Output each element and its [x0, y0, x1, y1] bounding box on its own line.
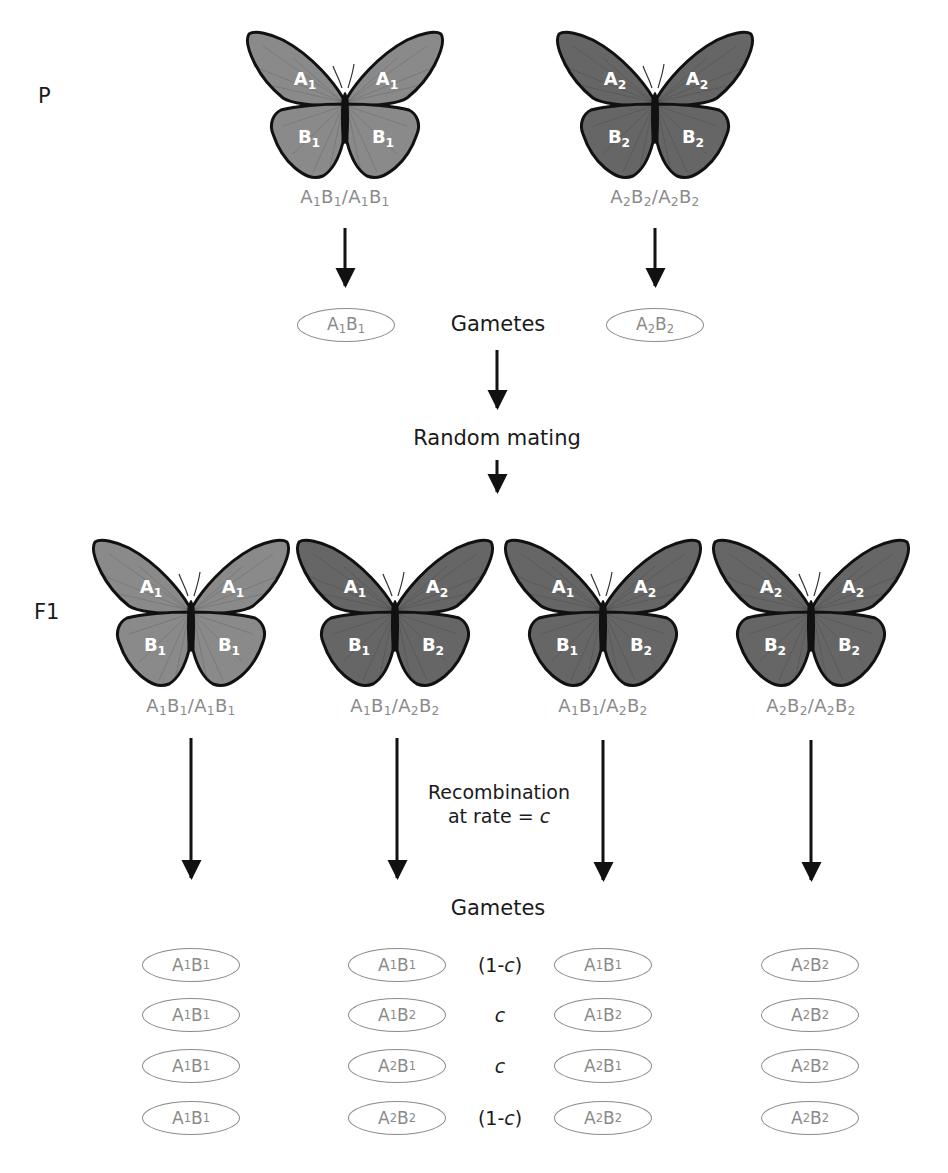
gametes-label-top: Gametes	[451, 312, 546, 336]
wing-label-upper-right: A1	[376, 68, 398, 91]
f1-2-butterfly: A1A2B1B2	[293, 534, 497, 692]
wing-label-upper-right: A2	[426, 576, 448, 599]
f1-1-genotype-label: A1B1/A1B1	[146, 695, 235, 718]
wing-label-lower-left: B1	[556, 634, 578, 657]
arrow-down	[190, 738, 193, 878]
gamete-oval: A2B1	[554, 1049, 652, 1083]
wing-label-upper-right: A2	[686, 68, 708, 91]
recombination-probability: (1-c)	[478, 1107, 522, 1129]
wing-label-lower-left: B2	[764, 634, 786, 657]
gamete-oval: A1B1	[142, 948, 240, 982]
wing-label-lower-right: B2	[630, 634, 652, 657]
parent-1-genotype-label: A1B1/A1B1	[300, 186, 389, 209]
gamete-oval-parent-2: A2B2	[606, 308, 704, 342]
wing-label-lower-right: B2	[838, 634, 860, 657]
recombination-label-line2: at rate = c	[428, 804, 570, 828]
wing-label-lower-right: B2	[682, 126, 704, 149]
gamete-oval: A2B2	[761, 948, 859, 982]
gamete-oval: A2B2	[761, 998, 859, 1032]
generation-label-f1: F1	[34, 600, 59, 624]
wing-label-upper-right: A2	[842, 576, 864, 599]
parent-1-butterfly: A1A1B1B1	[243, 26, 447, 184]
random-mating-label: Random mating	[413, 426, 581, 450]
recombination-probability: c	[495, 1055, 505, 1077]
f1-1-butterfly: A1A1B1B1	[89, 534, 293, 692]
gamete-oval: A2B2	[761, 1101, 859, 1135]
f1-4-genotype-label: A2B2/A2B2	[766, 695, 855, 718]
arrow-down	[496, 460, 499, 492]
parent-2-genotype-label: A2B2/A2B2	[610, 186, 699, 209]
arrow-down	[344, 228, 347, 286]
f1-2-genotype-label: A1B1/A2B2	[350, 695, 439, 718]
gamete-oval: A2B2	[761, 1049, 859, 1083]
gametes-label-bottom: Gametes	[451, 896, 546, 920]
f1-3-genotype-label: A1B1/A2B2	[558, 695, 647, 718]
recombination-probability: c	[495, 1004, 505, 1026]
arrow-down	[602, 740, 605, 880]
parent-2-butterfly: A2A2B2B2	[553, 26, 757, 184]
recombination-probability: (1-c)	[478, 954, 522, 976]
gamete-oval: A1B1	[348, 948, 446, 982]
arrow-down	[496, 350, 499, 408]
wing-label-upper-left: A1	[140, 576, 162, 599]
gamete-oval-parent-1: A1B1	[297, 308, 395, 342]
arrow-down	[810, 740, 813, 880]
gamete-oval: A1B2	[348, 998, 446, 1032]
gamete-oval: A1B2	[554, 998, 652, 1032]
arrow-down	[654, 228, 657, 286]
wing-label-lower-left: B1	[144, 634, 166, 657]
wing-label-lower-right: B1	[218, 634, 240, 657]
gamete-oval: A2B1	[348, 1049, 446, 1083]
gamete-oval: A2B2	[554, 1101, 652, 1135]
gamete-oval: A1B1	[142, 1101, 240, 1135]
f1-3-butterfly: A1A2B1B2	[501, 534, 705, 692]
gamete-oval: A2B2	[348, 1101, 446, 1135]
wing-label-upper-left: A1	[552, 576, 574, 599]
wing-label-upper-right: A2	[634, 576, 656, 599]
gamete-oval: A1B1	[142, 998, 240, 1032]
f1-4-butterfly: A2A2B2B2	[709, 534, 913, 692]
gamete-oval: A1B1	[142, 1049, 240, 1083]
wing-label-upper-left: A1	[344, 576, 366, 599]
recombination-label: Recombination at rate = c	[428, 780, 570, 828]
wing-label-lower-left: B1	[298, 126, 320, 149]
gamete-oval: A1B1	[554, 948, 652, 982]
wing-label-lower-left: B1	[348, 634, 370, 657]
recombination-label-line1: Recombination	[428, 780, 570, 804]
wing-label-upper-left: A2	[604, 68, 626, 91]
wing-label-lower-right: B2	[422, 634, 444, 657]
wing-label-upper-left: A2	[760, 576, 782, 599]
wing-label-lower-right: B1	[372, 126, 394, 149]
arrow-down	[396, 738, 399, 878]
generation-label-p: P	[38, 84, 51, 108]
wing-label-upper-right: A1	[222, 576, 244, 599]
wing-label-lower-left: B2	[608, 126, 630, 149]
wing-label-upper-left: A1	[294, 68, 316, 91]
